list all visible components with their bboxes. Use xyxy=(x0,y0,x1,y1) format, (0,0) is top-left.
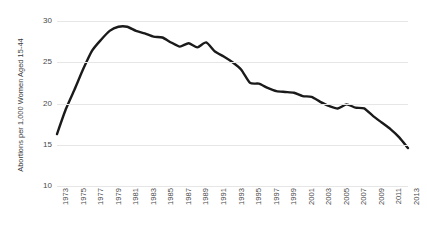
x-tick-label: 2001 xyxy=(307,188,317,222)
x-axis-tick-labels: 1973197519771979198119831985198719891991… xyxy=(0,188,427,226)
x-tick-label: 1987 xyxy=(184,188,194,222)
gridline xyxy=(57,145,408,146)
y-tick-label: 20 xyxy=(12,100,52,108)
x-tick-label: 2011 xyxy=(394,188,404,222)
x-tick-label: 2013 xyxy=(412,188,422,222)
x-tick-label: 2009 xyxy=(377,188,387,222)
x-tick-label: 1997 xyxy=(272,188,282,222)
x-tick-label: 1993 xyxy=(237,188,247,222)
gridline xyxy=(57,104,408,105)
abortion-rate-line-chart: Abortions per 1,000 Women Aged 15-44 101… xyxy=(0,0,427,226)
x-tick-label: 1995 xyxy=(254,188,264,222)
y-tick-label: 15 xyxy=(12,141,52,149)
x-tick-label: 1973 xyxy=(61,188,71,222)
x-tick-label: 1989 xyxy=(201,188,211,222)
x-tick-label: 1977 xyxy=(96,188,106,222)
x-tick-label: 2003 xyxy=(324,188,334,222)
gridline xyxy=(57,186,408,187)
x-tick-label: 1979 xyxy=(114,188,124,222)
x-tick-label: 2005 xyxy=(342,188,352,222)
y-tick-label: 30 xyxy=(12,17,52,25)
x-tick-label: 1985 xyxy=(166,188,176,222)
x-tick-label: 1975 xyxy=(79,188,89,222)
x-tick-label: 1981 xyxy=(131,188,141,222)
x-tick-label: 1991 xyxy=(219,188,229,222)
y-tick-label: 25 xyxy=(12,58,52,66)
x-tick-label: 1999 xyxy=(289,188,299,222)
x-tick-label: 2007 xyxy=(359,188,369,222)
x-tick-label: 1983 xyxy=(149,188,159,222)
data-series-line xyxy=(57,26,408,148)
gridline xyxy=(57,21,408,22)
gridline xyxy=(57,62,408,63)
plot-area xyxy=(57,21,408,186)
